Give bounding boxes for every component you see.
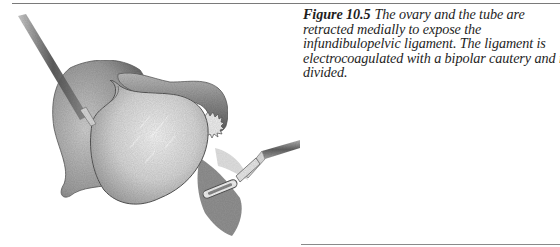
caption-line-4: electrocoagulated with a bipolar cautery… [303, 51, 560, 66]
figure-label: Figure 10.5 [303, 6, 370, 22]
figure-caption: Figure 10.5The ovary and the tube are re… [303, 7, 560, 80]
surgical-illustration [0, 8, 300, 247]
bottom-rule [301, 244, 560, 245]
top-rule [12, 3, 560, 4]
caption-line-1: Figure 10.5The ovary and the tube are [303, 7, 560, 22]
caption-line-5: divided. [303, 65, 560, 80]
caption-line-3: infundibulopelvic ligament. The ligament… [303, 36, 560, 51]
caption-line-2: retracted medially to expose the [303, 22, 560, 37]
